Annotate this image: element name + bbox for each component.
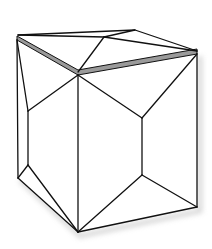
polyhedron-figure [0, 0, 212, 249]
polyhedron-drawing [0, 0, 212, 249]
